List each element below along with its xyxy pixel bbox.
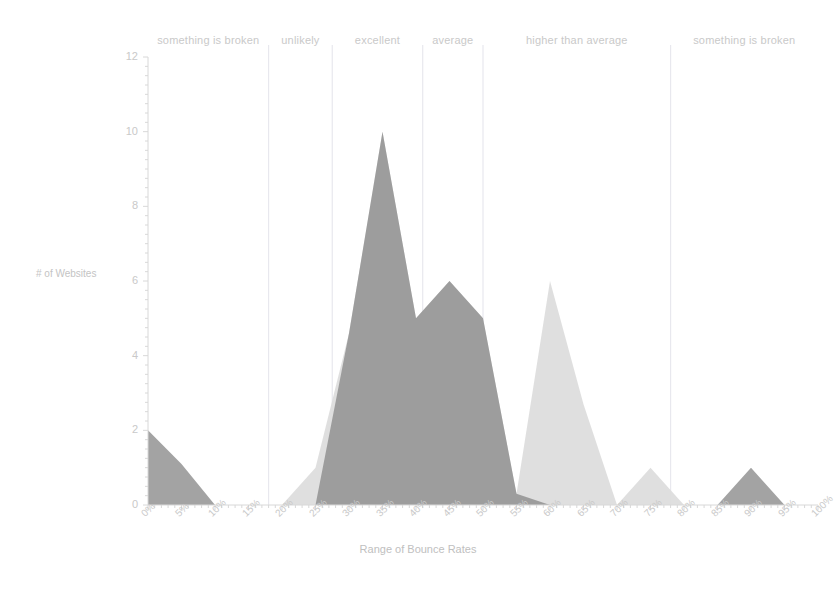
band-label-4: higher than average bbox=[487, 34, 667, 46]
y-tick-label-6: 6 bbox=[110, 274, 138, 286]
y-tick-label-4: 4 bbox=[110, 349, 138, 361]
y-tick-label-2: 2 bbox=[110, 423, 138, 435]
x-axis-title: Range of Bounce Rates bbox=[0, 543, 836, 555]
y-tick-label-12: 12 bbox=[110, 50, 138, 62]
y-tick-label-0: 0 bbox=[110, 498, 138, 510]
y-axis-tick-labels: 024681012 bbox=[110, 0, 138, 589]
y-tick-label-10: 10 bbox=[110, 125, 138, 137]
y-axis-title: # of Websites bbox=[36, 268, 96, 279]
band-label-5: something is broken bbox=[654, 34, 834, 46]
bounce-rate-area-chart: something is brokenunlikelyexcellentaver… bbox=[0, 0, 836, 589]
y-tick-label-8: 8 bbox=[110, 199, 138, 211]
